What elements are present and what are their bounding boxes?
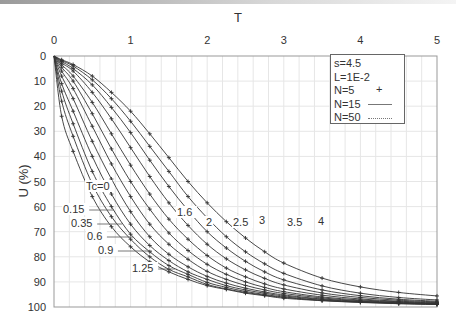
plus-marker-icon xyxy=(90,169,94,173)
x-tick-label: 5 xyxy=(434,34,440,46)
plus-marker-icon xyxy=(90,195,94,199)
curve-label: 3 xyxy=(259,214,265,226)
plus-marker-icon xyxy=(435,294,439,298)
plus-marker-icon xyxy=(244,280,248,284)
y-tick-label: 90 xyxy=(34,276,46,288)
plus-marker-icon xyxy=(282,283,286,287)
x-tick-label: 4 xyxy=(357,34,363,46)
consolidation-chart: 0123450102030405060708090100 Tc=00.150.3… xyxy=(0,0,456,325)
plus-marker-icon xyxy=(109,162,113,166)
plus-marker-icon xyxy=(71,97,75,101)
curve-label: 1.6 xyxy=(177,206,192,218)
plus-marker-icon xyxy=(109,205,113,209)
plus-marker-icon xyxy=(71,109,75,113)
plus-marker-icon xyxy=(186,270,190,274)
plus-marker-icon xyxy=(71,149,75,153)
plus-marker-icon xyxy=(60,114,64,118)
plus-marker-icon xyxy=(224,272,228,276)
plus-marker-icon xyxy=(320,284,324,288)
curve-label: 2 xyxy=(206,216,212,228)
plus-marker-icon xyxy=(224,266,228,270)
x-tick-label: 0 xyxy=(51,34,57,46)
x-tick-label: 1 xyxy=(128,34,134,46)
y-tick-label: 40 xyxy=(34,150,46,162)
legend-s: s=4.5 xyxy=(334,57,404,71)
legend-n15: N=15 xyxy=(334,98,404,112)
plus-marker-icon xyxy=(167,264,171,268)
plus-marker-icon xyxy=(244,283,248,287)
plus-marker-icon xyxy=(244,275,248,279)
plus-marker-icon xyxy=(90,154,94,158)
plus-marker-icon xyxy=(186,265,190,269)
plus-marker-icon xyxy=(244,268,248,272)
curve-label: 4 xyxy=(318,215,324,227)
legend-n50: N=50 xyxy=(334,111,404,125)
plus-marker-icon xyxy=(263,282,267,286)
plus-marker-icon xyxy=(263,270,267,274)
plus-marker-icon xyxy=(71,122,75,126)
plus-marker-icon xyxy=(358,285,362,289)
curve-label: 1.25 xyxy=(132,262,153,274)
y-tick-label: 50 xyxy=(34,176,46,188)
plus-marker-icon xyxy=(282,278,286,282)
y-tick-label: 0 xyxy=(40,50,46,62)
legend-n15-label: N=15 xyxy=(334,98,368,112)
curve-label: 0.6 xyxy=(87,230,102,242)
y-tick-label: 70 xyxy=(34,226,46,238)
plus-marker-icon xyxy=(109,132,113,136)
y-tick-label: 30 xyxy=(34,125,46,137)
plus-marker-icon xyxy=(60,99,64,103)
legend-l-label: L=1E-2 xyxy=(334,71,370,85)
legend-n5: N=5 xyxy=(334,84,404,98)
plus-marker-icon xyxy=(263,285,267,289)
solid-line-icon xyxy=(368,100,394,108)
plus-marker-icon xyxy=(263,262,267,266)
plus-marker-icon xyxy=(90,124,94,128)
curve-label: 0.15 xyxy=(63,203,84,215)
y-tick-label: 20 xyxy=(34,100,46,112)
plus-marker-icon xyxy=(90,112,94,116)
x-axis-title: T xyxy=(234,10,242,25)
legend-n50-label: N=50 xyxy=(334,111,368,125)
plus-marker-icon xyxy=(90,139,94,143)
plus-marker-icon xyxy=(282,261,286,265)
curve-label: 0.9 xyxy=(98,244,113,256)
curve-label: 0.35 xyxy=(71,217,92,229)
plus-marker-icon xyxy=(397,290,401,294)
legend-l: L=1E-2 xyxy=(334,71,404,85)
legend-s-label: s=4.5 xyxy=(334,57,361,71)
y-tick-label: 100 xyxy=(28,301,46,313)
plus-marker-icon xyxy=(205,269,209,273)
plus-marker-icon xyxy=(320,276,324,280)
plus-marker-icon xyxy=(205,274,209,278)
plus-marker-icon xyxy=(282,287,286,291)
plus-marker-icon xyxy=(282,271,286,275)
plus-marker-icon xyxy=(71,87,75,91)
plus-marker-icon xyxy=(109,192,113,196)
plus-marker-icon xyxy=(320,288,324,292)
x-tick-label: 3 xyxy=(281,34,287,46)
plus-marker-icon xyxy=(263,276,267,280)
curve-label: 2.5 xyxy=(233,216,248,228)
plus-marker-icon xyxy=(71,134,75,138)
legend-n5-label: N=5 xyxy=(334,84,368,98)
dashed-line-icon xyxy=(368,114,394,122)
curve-label: Tc=0 xyxy=(86,180,110,192)
plus-marker-icon xyxy=(60,74,64,78)
y-tick-label: 80 xyxy=(34,251,46,263)
legend: s=4.5 L=1E-2 N=5 N=15 N=50 xyxy=(330,54,405,124)
curve-label: 3.5 xyxy=(287,216,302,228)
y-axis-title: U (%) xyxy=(16,164,31,197)
curve-labels: Tc=00.150.350.60.91.251.622.533.54 xyxy=(62,180,325,274)
y-tick-label: 60 xyxy=(34,201,46,213)
plus-marker-icon xyxy=(358,291,362,295)
plus-marker-icon xyxy=(224,277,228,281)
y-tick-label: 10 xyxy=(34,75,46,87)
plus-marker-icon xyxy=(109,147,113,151)
plus-marker-icon xyxy=(368,87,394,95)
x-tick-label: 2 xyxy=(204,34,210,46)
